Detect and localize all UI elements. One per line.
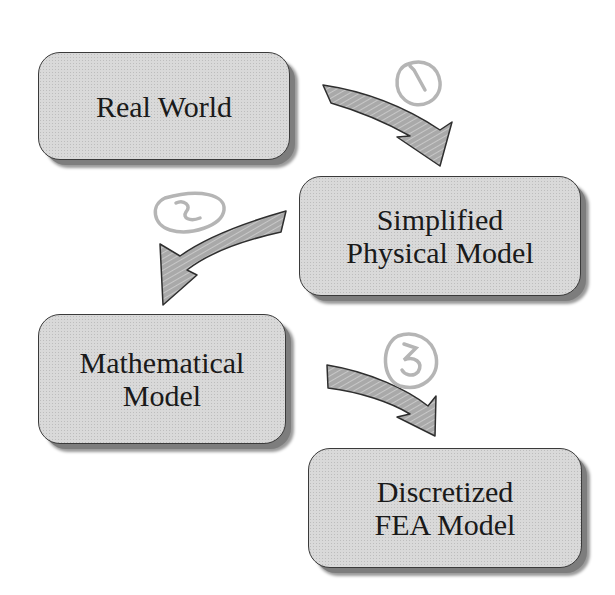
- node-real-world: Real World: [38, 52, 290, 160]
- node-discretized-fea-model: Discretized FEA Model: [308, 448, 582, 568]
- arrow-3-icon: [327, 365, 436, 436]
- arrow-1-icon: [323, 85, 452, 166]
- node-label-line: FEA Model: [375, 508, 516, 541]
- node-label-line: Physical Model: [346, 236, 534, 269]
- node-mathematical-model: Mathematical Model: [38, 314, 286, 444]
- arrow-2-icon: [160, 211, 286, 305]
- node-simplified-physical-model: Simplified Physical Model: [299, 176, 581, 296]
- node-label-line: Real World: [96, 90, 232, 123]
- node-label-line: Simplified: [346, 203, 534, 236]
- annotation-3-icon: [385, 334, 436, 387]
- node-label-line: Discretized: [375, 475, 516, 508]
- node-label-line: Model: [80, 379, 245, 412]
- annotation-2-icon: [155, 193, 224, 231]
- node-label-line: Mathematical: [80, 346, 245, 379]
- annotation-1-icon: [397, 62, 440, 105]
